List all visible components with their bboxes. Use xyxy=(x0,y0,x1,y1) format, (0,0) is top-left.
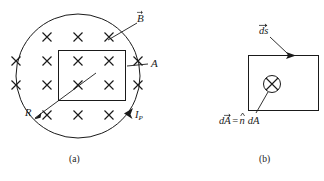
label-radius-r: R xyxy=(25,108,31,119)
figure-canvas xyxy=(0,0,324,181)
caption-panel-a: (a) xyxy=(69,155,80,165)
ds-vector-text: ds xyxy=(259,25,268,36)
normal-unit-text: n xyxy=(240,115,245,126)
field-cross-row-1 xyxy=(43,33,114,42)
b-vector-text: B xyxy=(137,12,144,24)
label-b-vector: B xyxy=(137,13,144,24)
area-differential-text: dA xyxy=(245,115,260,126)
field-cross-row-3 xyxy=(12,81,143,90)
area-a-text: A xyxy=(151,57,158,69)
label-area-a: A xyxy=(151,58,158,69)
b-vector-leader xyxy=(108,23,137,40)
label-ds-vector: ds xyxy=(259,26,268,37)
ds-label-leader xyxy=(270,37,287,53)
radius-r-text: R xyxy=(25,107,31,118)
panel-b-group xyxy=(249,37,319,113)
surface-rectangle xyxy=(249,56,319,111)
area-vector-text: dA xyxy=(219,115,231,126)
da-equation-leader xyxy=(256,92,268,113)
field-cross-row-2 xyxy=(12,57,143,66)
label-current-ip: IP xyxy=(135,110,143,122)
caption-panel-b: (b) xyxy=(259,155,270,165)
current-subscript-p: P xyxy=(139,114,143,122)
area-vector-symbol xyxy=(264,76,281,93)
label-area-vector-equation: dA = n dA xyxy=(219,116,260,127)
panel-a-group xyxy=(12,14,149,138)
field-cross-row-4 xyxy=(43,111,114,120)
area-label-leader xyxy=(127,64,148,66)
equals-sign: = xyxy=(231,115,240,126)
physics-figure: B A R IP (a) ds xyxy=(0,0,324,181)
current-arrowhead xyxy=(124,108,133,119)
radius-arrow xyxy=(34,73,96,120)
